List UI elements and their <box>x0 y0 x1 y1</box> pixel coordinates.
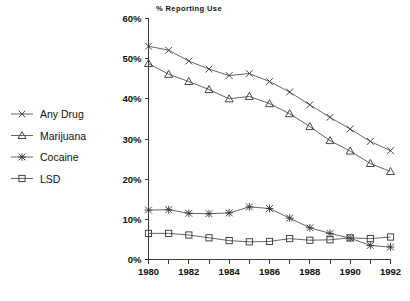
x-tick-label: 1980 <box>138 266 159 277</box>
y-tick-label: 40% <box>122 93 142 104</box>
legend-marker-triangle-icon <box>18 132 26 139</box>
y-tick-label: 30% <box>122 134 142 145</box>
legend-item-marijuana[interactable]: Marijuana <box>11 130 86 142</box>
series-line <box>149 63 391 171</box>
series-group <box>145 43 395 251</box>
x-tick-label: 1986 <box>259 266 280 277</box>
axis-frame <box>149 19 391 260</box>
series-marijuana <box>145 59 395 174</box>
line-chart: % Reporting Use 0%10%20%30%40%50%60% 198… <box>0 0 410 301</box>
x-tick-label: 1982 <box>178 266 199 277</box>
y-tick-label: 50% <box>122 53 142 64</box>
chart-title-group: % Reporting Use <box>156 4 222 13</box>
x-tick-label: 1984 <box>219 266 241 277</box>
data-point-marker <box>245 92 253 99</box>
chart-legend: Any DrugMarijuanaCocaineLSD <box>11 108 86 185</box>
chart-figure: % Reporting Use 0%10%20%30%40%50%60% 198… <box>0 0 410 301</box>
axis-lines <box>149 19 391 260</box>
data-point-marker <box>387 168 395 175</box>
legend-label: LSD <box>40 173 61 185</box>
y-tick-label: 20% <box>122 174 142 185</box>
y-tick-label: 60% <box>122 13 142 24</box>
data-point-marker <box>185 78 193 85</box>
x-axis: 1980198219841986198819901992 <box>138 260 401 277</box>
series-cocaine <box>145 203 395 251</box>
chart-title: % Reporting Use <box>156 4 222 13</box>
legend-label: Marijuana <box>40 130 86 142</box>
y-axis: 0%10%20%30%40%50%60% <box>122 13 148 265</box>
x-tick-label: 1988 <box>299 266 320 277</box>
y-tick-label: 0% <box>128 254 142 265</box>
series-lsd <box>145 230 393 245</box>
series-line <box>149 46 391 150</box>
y-tick-label: 10% <box>122 214 142 225</box>
legend-label: Any Drug <box>40 108 84 120</box>
series-line <box>149 233 391 241</box>
x-tick-label: 1990 <box>340 266 361 277</box>
series-any-drug <box>145 43 394 154</box>
data-point-marker <box>266 100 274 107</box>
legend-item-lsd[interactable]: LSD <box>11 173 61 185</box>
legend-label: Cocaine <box>40 151 79 163</box>
data-point-marker <box>205 86 213 93</box>
legend-item-any-drug[interactable]: Any Drug <box>11 108 84 120</box>
x-tick-label: 1992 <box>380 266 401 277</box>
legend-item-cocaine[interactable]: Cocaine <box>11 151 79 163</box>
